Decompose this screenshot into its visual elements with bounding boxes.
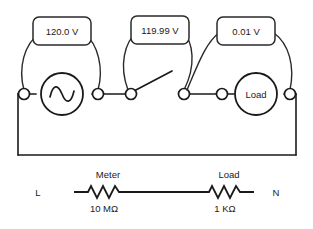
- source-section: 120.0 V: [18, 17, 131, 115]
- terminal-switch-left: [126, 89, 137, 100]
- terminal-load-right: [285, 89, 296, 100]
- load-resistor-value: 1 KΩ: [214, 203, 235, 214]
- series-schematic: L N Meter 10 MΩ Load 1 KΩ: [35, 169, 279, 214]
- switch-blade: [134, 71, 172, 91]
- schematic-left-terminal-label: L: [35, 187, 40, 198]
- load-voltmeter-reading: 0.01 V: [232, 26, 260, 37]
- schematic-right-terminal-label: N: [273, 187, 280, 198]
- terminal-source-right: [93, 89, 104, 100]
- load-section: 0.01 V Load: [187, 17, 296, 115]
- meter-resistor-symbol: [74, 186, 133, 198]
- meter-resistor-value: 10 MΩ: [90, 203, 118, 214]
- terminal-source-left: [19, 89, 30, 100]
- source-voltmeter-reading: 120.0 V: [46, 26, 79, 37]
- load-label: Load: [245, 89, 266, 100]
- terminal-load-left: [217, 89, 228, 100]
- load-resistor-symbol: [199, 186, 254, 198]
- terminal-switch-right: [179, 89, 190, 100]
- load-resistor-name: Load: [218, 169, 239, 180]
- switch-voltmeter-reading: 119.99 V: [141, 25, 179, 36]
- load-meter-lead-right: [274, 33, 292, 90]
- meter-resistor-name: Meter: [96, 169, 120, 180]
- switch-section: 119.99 V: [123, 16, 222, 100]
- circuit-diagram-canvas: 120.0 V 119.99 V: [0, 0, 313, 229]
